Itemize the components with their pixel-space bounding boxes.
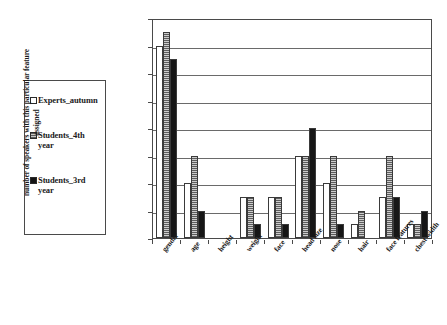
- plot-area: [152, 19, 432, 239]
- x-tick-mark: [292, 240, 293, 244]
- bars-layer: [153, 20, 431, 238]
- bar: [323, 183, 330, 238]
- bar: [156, 46, 163, 239]
- bar: [170, 59, 177, 238]
- x-tick-mark: [152, 240, 153, 244]
- bar-group: [264, 20, 292, 238]
- x-tick-mark: [208, 240, 209, 244]
- bar: [184, 183, 191, 238]
- bar-group: [375, 20, 403, 238]
- bar: [358, 211, 365, 239]
- bar-group: [153, 20, 181, 238]
- bar-group: [209, 20, 237, 238]
- x-tick-mark: [404, 240, 405, 244]
- bar: [240, 197, 247, 238]
- bar: [351, 224, 358, 238]
- bar: [282, 224, 289, 238]
- bar: [198, 211, 205, 239]
- x-tick-mark: [264, 240, 265, 244]
- x-tick-mark: [320, 240, 321, 244]
- x-tick-mark: [432, 240, 433, 244]
- x-tick-mark: [180, 240, 181, 244]
- bar: [386, 156, 393, 239]
- x-tick-mark: [236, 240, 237, 244]
- bar: [379, 197, 386, 238]
- bar: [302, 156, 309, 239]
- bar: [295, 156, 302, 239]
- bar-group: [236, 20, 264, 238]
- bar-group: [181, 20, 209, 238]
- bar: [414, 224, 421, 238]
- x-tick-mark: [376, 240, 377, 244]
- bar-group: [403, 20, 431, 238]
- bar: [163, 32, 170, 238]
- bar-group: [292, 20, 320, 238]
- bar: [268, 197, 275, 238]
- bar: [191, 156, 198, 239]
- bar: [330, 156, 337, 239]
- bar-group: [348, 20, 376, 238]
- x-tick-mark: [348, 240, 349, 244]
- bar: [247, 197, 254, 238]
- bar: [275, 197, 282, 238]
- bar: [337, 224, 344, 238]
- bar-group: [320, 20, 348, 238]
- bar-chart: Experts_autumn Students_4th year Student…: [0, 0, 447, 325]
- bar: [309, 128, 316, 238]
